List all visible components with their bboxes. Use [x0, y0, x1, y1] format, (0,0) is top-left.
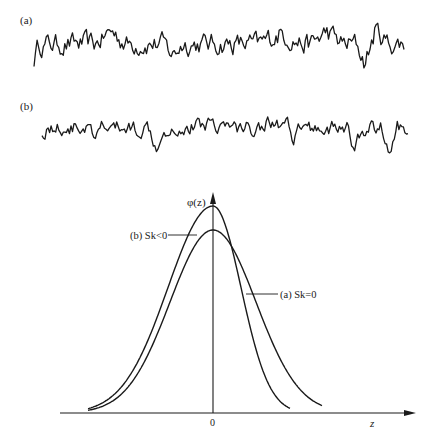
origin-tick-label: 0	[210, 417, 215, 428]
curve-a-label: (a) Sk=0	[280, 289, 317, 301]
y-axis-arrow-icon	[210, 192, 216, 204]
panel-b-label: (b)	[20, 100, 33, 113]
signal-a-trace	[34, 23, 404, 68]
signal-b-trace	[42, 117, 408, 153]
pdf-curve-b-skewed	[88, 206, 290, 409]
skewness-figure: (a) (b) φ(z) z 0 (b) Sk<0 (a) Sk=0	[0, 0, 428, 435]
panel-a-label: (a)	[20, 14, 33, 27]
x-axis-label: z	[369, 417, 375, 429]
y-axis-label: φ(z)	[187, 196, 206, 209]
pdf-curve-a-gaussian	[88, 230, 322, 410]
curve-b-label: (b) Sk<0	[130, 230, 167, 242]
x-axis-arrow-icon	[404, 410, 416, 416]
